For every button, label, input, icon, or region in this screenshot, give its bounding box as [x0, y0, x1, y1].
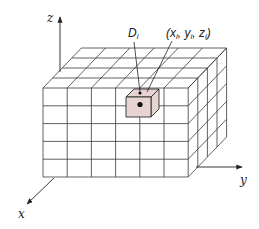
cell-label: Di	[128, 27, 138, 41]
cell-label-subscript: i	[137, 32, 139, 41]
coord-open: (x	[166, 26, 176, 40]
x-axis	[27, 178, 54, 204]
highlighted-voxel	[126, 89, 159, 117]
coord-close: )	[207, 26, 211, 40]
y-axis-label: y	[240, 174, 247, 186]
cell-label-main: D	[128, 26, 137, 40]
z-axis-label: z	[47, 12, 53, 24]
cell-coordinates-label: (xi, yi, zi)	[166, 27, 211, 41]
leader-coords	[147, 41, 172, 92]
coord-y: , y	[178, 26, 191, 40]
coord-z: , z	[192, 26, 205, 40]
leader-d-i	[134, 42, 140, 92]
x-axis-label: x	[18, 208, 25, 220]
